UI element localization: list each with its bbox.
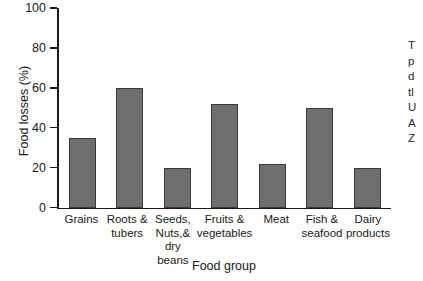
bar-chart-figure: Food losses (%) 020406080100 GrainsRoots…: [0, 0, 423, 281]
bar: [354, 168, 381, 208]
bar-slot: [296, 8, 344, 208]
y-axis-tick: 20: [50, 167, 57, 169]
x-axis-line: [57, 208, 391, 210]
bar: [211, 104, 238, 208]
y-axis-tick: 0: [50, 207, 57, 209]
y-axis-title: Food losses (%): [17, 31, 31, 191]
bar: [306, 108, 333, 208]
bar-slot: [154, 8, 202, 208]
caption-line: p: [408, 54, 423, 70]
bar-slot: [249, 8, 297, 208]
y-axis-tick: 40: [50, 127, 57, 129]
y-axis-tick-label: 100: [25, 2, 46, 15]
bar: [164, 168, 191, 208]
bar: [69, 138, 96, 208]
x-axis-title: Food group: [57, 259, 391, 273]
caption-line: Z: [408, 131, 423, 147]
y-axis-tick: 100: [50, 7, 57, 9]
bar-slot: [59, 8, 107, 208]
y-axis-tick-label: 20: [32, 161, 46, 174]
y-axis-tick: 60: [50, 87, 57, 89]
y-axis-tick-label: 80: [32, 42, 46, 55]
clipped-side-caption: TpdtlUAZ: [408, 38, 423, 147]
bar-series: [59, 8, 392, 208]
caption-line: T: [408, 38, 423, 54]
y-axis-tick-label: 0: [39, 201, 46, 214]
bar-slot: [106, 8, 154, 208]
caption-line: d: [408, 69, 423, 85]
caption-line: A: [408, 116, 423, 132]
caption-line: tl: [408, 85, 423, 101]
bar: [259, 164, 286, 208]
y-axis-tick-label: 40: [32, 121, 46, 134]
caption-line: U: [408, 100, 423, 116]
bar-slot: [344, 8, 392, 208]
bar: [116, 88, 143, 208]
bar-slot: [201, 8, 249, 208]
plot-area: 020406080100: [57, 8, 391, 209]
y-axis-tick-label: 60: [32, 82, 46, 95]
y-axis-tick: 80: [50, 47, 57, 49]
